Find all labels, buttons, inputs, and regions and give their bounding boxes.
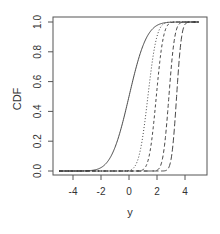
y-axis-title: CDF — [11, 87, 23, 110]
x-tick-label: 0 — [126, 186, 132, 197]
y-axis: 0.00.20.40.60.81.0 — [32, 15, 53, 178]
cdf-chart: 0.00.20.40.60.81.0 -4-2024 CDF y — [0, 0, 220, 234]
curve-1-line — [59, 22, 199, 171]
y-tick-label: 0.0 — [32, 164, 43, 178]
x-axis-title: y — [127, 206, 133, 218]
x-tick-label: 4 — [182, 186, 188, 197]
x-tick-label: -2 — [97, 186, 106, 197]
y-tick-label: 0.6 — [32, 74, 43, 88]
x-tick-label: -4 — [69, 186, 78, 197]
y-tick-label: 0.8 — [32, 44, 43, 58]
curves — [59, 22, 199, 171]
x-tick-label: 2 — [154, 186, 160, 197]
x-axis: -4-2024 — [69, 175, 189, 197]
plot-box — [53, 17, 207, 175]
y-tick-label: 1.0 — [32, 15, 43, 29]
y-tick-label: 0.4 — [32, 104, 43, 118]
y-tick-label: 0.2 — [32, 134, 43, 148]
